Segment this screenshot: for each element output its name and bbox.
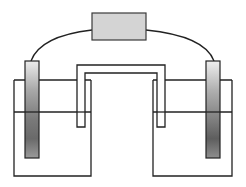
left-electrode [25,61,39,158]
galvanic-cell-diagram [0,0,246,187]
salt-bridge [77,65,165,127]
right-electrode [206,61,220,158]
meter-box [92,13,146,40]
diagram-canvas [0,0,246,187]
